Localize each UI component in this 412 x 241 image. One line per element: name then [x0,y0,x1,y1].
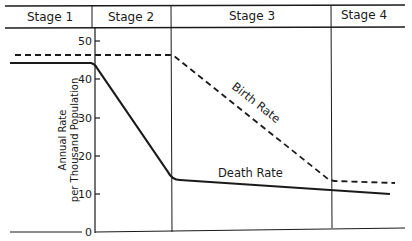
death-rate-label: Death Rate [218,166,283,180]
header-bottom-rule [5,27,405,28]
y-tick-20: 20 [78,150,92,163]
chart-canvas: Stage 1 Stage 2 Stage 3 Stage 4 50 40 30… [0,0,412,241]
y-tick-0: 0 [85,226,92,239]
demographic-transition-chart: Stage 1 Stage 2 Stage 3 Stage 4 50 40 30… [0,0,412,241]
stage-label-1: Stage 1 [27,10,73,24]
stage-label-2: Stage 2 [108,10,154,24]
y-ticks [95,41,100,194]
y-tick-30: 30 [78,112,92,125]
birth-rate-label: Birth Rate [229,79,283,126]
y-tick-10: 10 [78,188,92,201]
x-baseline [95,228,405,232]
y-axis-title-line1: Annual Rate [57,110,68,171]
y-axis-title-line2: per Thousand Population [69,78,80,202]
stage-divider-2-3 [171,6,172,232]
stage-label-3: Stage 3 [229,9,275,23]
header-top-rule [5,5,405,6]
stage-divider-3-4 [331,5,332,228]
stage-label-4: Stage 4 [341,8,387,22]
y-tick-50: 50 [78,35,92,48]
y-tick-40: 40 [78,73,92,86]
